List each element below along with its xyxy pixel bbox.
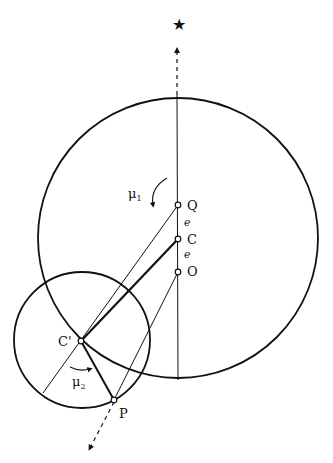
- point-p: [111, 397, 117, 403]
- point-cprime: [78, 338, 84, 344]
- epicycle-diagram: ★ Q e C e O C' P μ1 μ2: [0, 0, 333, 463]
- label-cprime: C': [58, 334, 72, 349]
- star-icon: ★: [172, 15, 186, 34]
- label-q: Q: [187, 198, 198, 213]
- label-c: C: [187, 232, 197, 247]
- label-o: O: [187, 264, 198, 279]
- point-c: [175, 236, 181, 242]
- rotation-arrow-mu1: [153, 178, 167, 205]
- label-e-lower: e: [184, 248, 191, 261]
- point-o: [175, 269, 181, 275]
- label-e-upper: e: [184, 216, 191, 229]
- point-q: [175, 202, 181, 208]
- line-cprime-to-p: [81, 341, 114, 400]
- line-q-to-cprime: [43, 205, 178, 393]
- label-p: P: [119, 406, 128, 421]
- rotation-arrow-mu2: [70, 367, 90, 370]
- label-mu1: μ1: [128, 186, 142, 203]
- dashed-line-from-p: [90, 402, 114, 448]
- line-c-to-cprime: [81, 239, 178, 341]
- line-o-to-p: [114, 272, 178, 400]
- label-mu2: μ2: [72, 374, 86, 391]
